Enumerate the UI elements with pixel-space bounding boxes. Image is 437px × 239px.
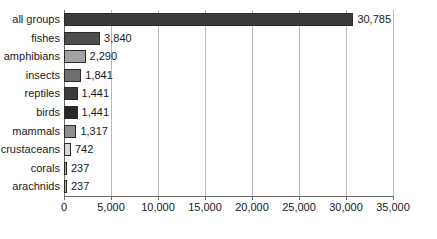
category-label: corals bbox=[0, 159, 60, 178]
bar-value-label: 742 bbox=[75, 140, 93, 159]
bar bbox=[64, 50, 86, 63]
tickmark-25000 bbox=[299, 196, 300, 200]
tickmark-30000 bbox=[346, 196, 347, 200]
category-label: crustaceans bbox=[0, 140, 60, 159]
bar-row: all groups30,785 bbox=[64, 10, 393, 29]
bar-value-label: 30,785 bbox=[357, 10, 391, 29]
x-tick-label: 5,000 bbox=[97, 201, 125, 213]
x-tick-label: 35,000 bbox=[376, 201, 410, 213]
tickmark-15000 bbox=[205, 196, 206, 200]
bar bbox=[64, 180, 67, 193]
plot-area: all groups30,785fishes3,840amphibians2,2… bbox=[64, 10, 393, 196]
bar bbox=[64, 32, 100, 45]
bar-row: arachnids237 bbox=[64, 177, 393, 196]
bar bbox=[64, 162, 67, 175]
bar-row: mammals1,317 bbox=[64, 122, 393, 141]
bar-value-label: 3,840 bbox=[104, 29, 132, 48]
x-tick-label: 10,000 bbox=[141, 201, 175, 213]
category-label: birds bbox=[0, 103, 60, 122]
x-tick-label: 30,000 bbox=[329, 201, 363, 213]
bar-row: insects1,841 bbox=[64, 66, 393, 85]
tickmark-20000 bbox=[252, 196, 253, 200]
bar bbox=[64, 69, 81, 82]
bar-row: corals237 bbox=[64, 159, 393, 178]
bar-value-label: 2,290 bbox=[90, 47, 118, 66]
bar-row: amphibians2,290 bbox=[64, 47, 393, 66]
bar bbox=[64, 125, 76, 138]
tickmark-5000 bbox=[111, 196, 112, 200]
category-label: reptiles bbox=[0, 84, 60, 103]
bar-value-label: 1,441 bbox=[82, 103, 110, 122]
bar-value-label: 237 bbox=[71, 159, 89, 178]
category-label: fishes bbox=[0, 29, 60, 48]
tickmark-10000 bbox=[158, 196, 159, 200]
bar-row: fishes3,840 bbox=[64, 29, 393, 48]
bar bbox=[64, 13, 353, 26]
category-label: insects bbox=[0, 66, 60, 85]
bar-row: birds1,441 bbox=[64, 103, 393, 122]
category-label: mammals bbox=[0, 122, 60, 141]
bar-value-label: 1,317 bbox=[80, 122, 108, 141]
bar-value-label: 1,841 bbox=[85, 66, 113, 85]
category-label: arachnids bbox=[0, 177, 60, 196]
gridline-35000 bbox=[393, 10, 394, 196]
category-label: amphibians bbox=[0, 47, 60, 66]
category-label: all groups bbox=[0, 10, 60, 29]
x-axis-tick-labels: 05,00010,00015,00020,00025,00030,00035,0… bbox=[0, 201, 437, 221]
bar bbox=[64, 106, 78, 119]
x-tick-label: 25,000 bbox=[282, 201, 316, 213]
bar-chart: all groups30,785fishes3,840amphibians2,2… bbox=[0, 0, 437, 239]
bar-value-label: 1,441 bbox=[82, 84, 110, 103]
bar-row: reptiles1,441 bbox=[64, 84, 393, 103]
x-axis-line bbox=[64, 196, 394, 197]
bar bbox=[64, 87, 78, 100]
bar-rows: all groups30,785fishes3,840amphibians2,2… bbox=[64, 10, 393, 196]
x-tick-label: 20,000 bbox=[235, 201, 269, 213]
bar-row: crustaceans742 bbox=[64, 140, 393, 159]
x-tick-label: 0 bbox=[61, 201, 67, 213]
tickmark-35000 bbox=[393, 196, 394, 200]
bar bbox=[64, 143, 71, 156]
tickmark-0 bbox=[64, 196, 65, 200]
x-tick-label: 15,000 bbox=[188, 201, 222, 213]
bar-value-label: 237 bbox=[71, 177, 89, 196]
